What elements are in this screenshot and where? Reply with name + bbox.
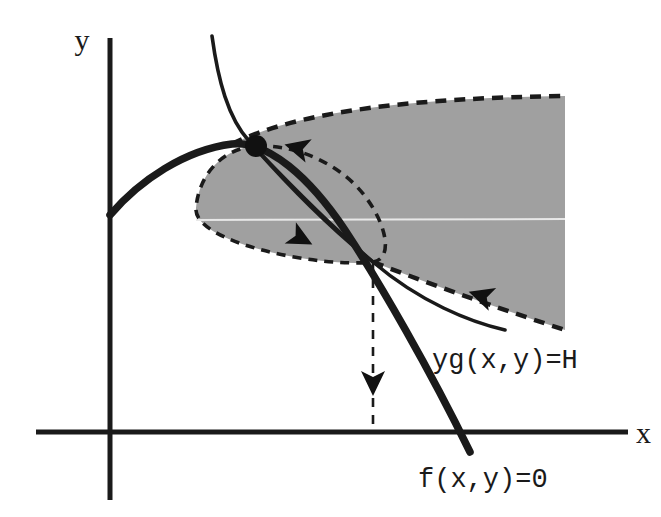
phase-plane-figure: y x yg(x,y)=H f(x,y)=0 (0, 0, 661, 517)
nullcline-label: f(x,y)=0 (418, 465, 548, 495)
level-set-label: yg(x,y)=H (432, 346, 578, 376)
equilibrium-dot (245, 135, 267, 157)
diagram-canvas: y x yg(x,y)=H f(x,y)=0 (0, 0, 661, 517)
x-axis-label: x (636, 416, 651, 449)
arrow-down-dashed-drop (361, 371, 385, 396)
y-axis-label: y (75, 23, 90, 56)
invariant-region-shading (196, 96, 565, 330)
